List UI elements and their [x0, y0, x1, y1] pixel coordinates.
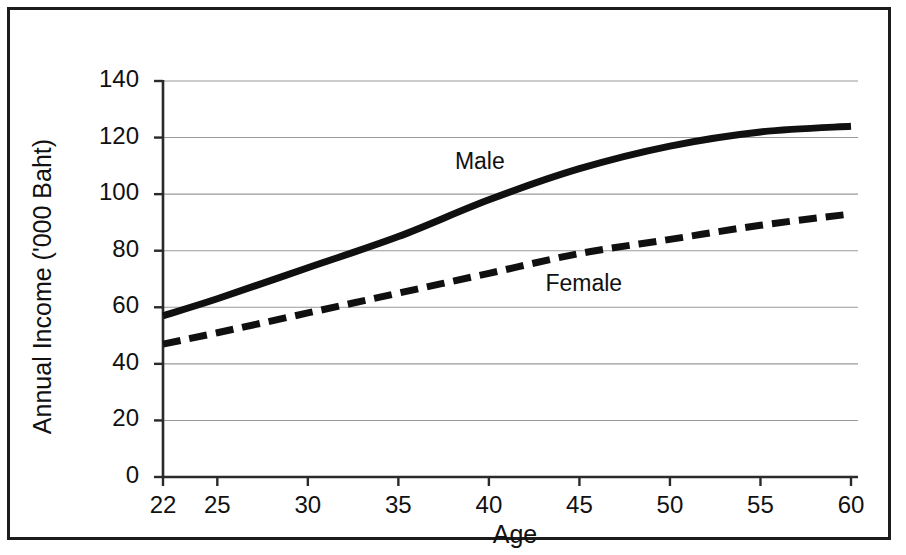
series-line-male [163, 126, 851, 316]
y-tick-label: 0 [59, 461, 139, 489]
y-tick-label: 140 [59, 65, 139, 93]
x-tick-label: 40 [459, 491, 519, 519]
x-tick-label: 45 [549, 491, 609, 519]
x-tick-label: 25 [187, 491, 247, 519]
x-tick-label: 30 [278, 491, 338, 519]
y-tick-label: 60 [59, 291, 139, 319]
y-tick-label: 80 [59, 235, 139, 263]
series-label-female: Female [545, 270, 622, 297]
line-chart-plot [10, 10, 894, 543]
y-tick-label: 40 [59, 348, 139, 376]
y-axis-title: Annual Income ('000 Baht) [28, 87, 57, 487]
series-label-male: Male [455, 148, 505, 175]
x-axis-title: Age [170, 520, 860, 549]
x-tick-label: 50 [640, 491, 700, 519]
y-tick-label: 20 [59, 404, 139, 432]
x-tick-label: 60 [821, 491, 881, 519]
x-tick-label: 55 [730, 491, 790, 519]
chart-figure: Annual Income ('000 Baht) Age 0204060801… [0, 0, 906, 555]
y-tick-label: 100 [59, 178, 139, 206]
y-tick-label: 120 [59, 122, 139, 150]
x-tick-label: 35 [368, 491, 428, 519]
figure-border: Annual Income ('000 Baht) Age 0204060801… [7, 7, 891, 540]
x-tick-label: 22 [133, 491, 193, 519]
